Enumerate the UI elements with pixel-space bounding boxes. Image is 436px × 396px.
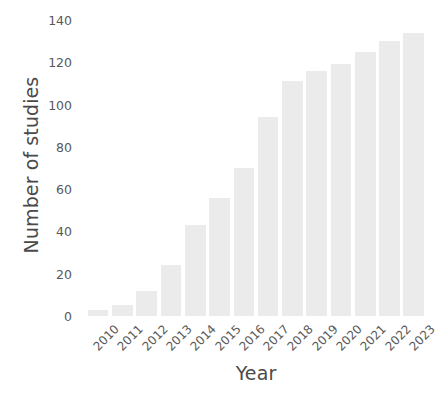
y-axis-tick-label: 20	[56, 266, 72, 281]
x-axis-title: Year	[86, 362, 426, 384]
x-axis-tick-label: 2015	[212, 322, 243, 353]
y-axis-tick-label: 140	[48, 13, 72, 28]
bar-slot	[329, 20, 353, 316]
bar[interactable]	[306, 71, 327, 316]
bar[interactable]	[258, 117, 279, 316]
bar-slot	[232, 20, 256, 316]
y-axis-tick-labels: 020406080100120140	[0, 0, 80, 396]
bar-slot	[377, 20, 401, 316]
bar[interactable]	[185, 225, 206, 316]
bar-slot	[207, 20, 231, 316]
bar-slot	[159, 20, 183, 316]
y-axis-tick-label: 60	[56, 182, 72, 197]
bar-slot	[353, 20, 377, 316]
x-axis-tick-label: 2020	[333, 322, 364, 353]
x-axis-tick-label: 2019	[309, 322, 340, 353]
bar-slot	[110, 20, 134, 316]
x-axis-tick-label: 2023	[406, 322, 436, 353]
y-axis-tick-label: 0	[64, 309, 72, 324]
bar[interactable]	[209, 198, 230, 316]
x-axis-tick-label: 2013	[163, 322, 194, 353]
bar[interactable]	[136, 291, 157, 316]
bar[interactable]	[234, 168, 255, 316]
bar[interactable]	[403, 33, 424, 316]
bar-slot	[280, 20, 304, 316]
bar[interactable]	[355, 52, 376, 316]
x-axis-tick-label: 2018	[285, 322, 316, 353]
bar[interactable]	[331, 64, 352, 316]
x-axis-tick-label: 2011	[115, 322, 146, 353]
bar-chart: Number of studies 020406080100120140 201…	[0, 0, 436, 396]
bar[interactable]	[379, 41, 400, 316]
bar[interactable]	[282, 81, 303, 316]
bar-slot	[183, 20, 207, 316]
x-axis-tick-label: 2010	[91, 322, 122, 353]
bar[interactable]	[112, 305, 133, 316]
bar-slot	[402, 20, 426, 316]
y-axis-tick-label: 80	[56, 139, 72, 154]
bars-layer	[86, 20, 426, 316]
bar-slot	[86, 20, 110, 316]
plot-area	[86, 20, 426, 316]
bar[interactable]	[161, 265, 182, 316]
x-axis-tick-label: 2014	[188, 322, 219, 353]
x-axis-tick-label: 2012	[139, 322, 170, 353]
x-axis-tick-label: 2016	[236, 322, 267, 353]
y-axis-tick-label: 40	[56, 224, 72, 239]
y-axis-tick-label: 120	[48, 55, 72, 70]
x-axis-tick-label: 2021	[358, 322, 389, 353]
bar-slot	[305, 20, 329, 316]
x-axis-tick-label: 2017	[261, 322, 292, 353]
bar-slot	[135, 20, 159, 316]
x-axis-tick-labels: 2010201120122013201420152016201720182019…	[86, 316, 426, 366]
y-axis-tick-label: 100	[48, 97, 72, 112]
bar-slot	[256, 20, 280, 316]
x-axis-tick-label: 2022	[382, 322, 413, 353]
